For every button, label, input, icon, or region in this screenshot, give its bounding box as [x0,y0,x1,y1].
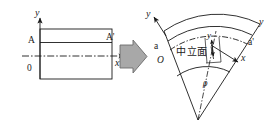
element-edge-inner [219,37,221,62]
left-origin-label: 0 [27,64,32,74]
right-x-axis [211,45,238,62]
left-radial-edge [164,31,198,120]
outer-y-label: y [259,17,263,27]
figure-canvas [0,0,275,127]
beam-rectangle [40,29,112,79]
outer-arc [164,14,260,31]
radius-label-rho: ρ [203,79,208,89]
right-y-axis [154,17,166,36]
right-x-axis-label: x [241,53,245,63]
left-beam-group [22,18,124,79]
inner-y-label: y [207,31,211,40]
transform-arrow-group [120,40,147,73]
section-label-a: a [154,42,158,52]
right-arrow-shape [120,40,147,73]
element-bottom [206,62,221,63]
left-x-axis-label: x [115,58,119,68]
section-label-A-prime: A' [106,33,115,43]
section-label-A: A [28,36,35,46]
bending-beam-figure: y x 0 A A' y x O a a' y y 中立面 ρ [0,0,275,127]
inner-arc [177,67,230,76]
neutral-surface-label: 中立面 [176,47,208,57]
right-y-axis-label: y [146,9,150,19]
section-label-a-prime: a' [248,38,254,48]
left-y-axis-label: y [35,8,39,18]
right-origin-label: O [157,56,164,66]
